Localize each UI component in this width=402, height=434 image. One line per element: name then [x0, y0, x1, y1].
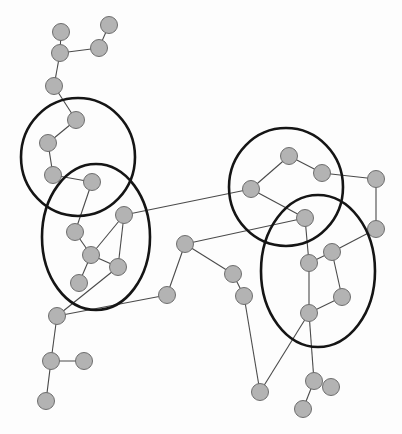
- graph-node-n12: [83, 247, 100, 264]
- graph-node-n14: [71, 275, 88, 292]
- graph-node-n26: [368, 171, 385, 188]
- cluster-4-outline: [261, 195, 375, 347]
- graph-node-n34: [306, 373, 323, 390]
- edges-layer: [46, 25, 376, 409]
- graph-node-n16: [159, 287, 176, 304]
- graph-node-n2: [101, 17, 118, 34]
- graph-node-n8: [45, 167, 62, 184]
- edge-n33-n23: [260, 313, 309, 392]
- nodes-layer: [38, 17, 385, 418]
- graph-node-n13: [110, 259, 127, 276]
- graph-node-n1: [53, 24, 70, 41]
- edge-n27-n28: [251, 189, 305, 218]
- graph-node-n17: [177, 236, 194, 253]
- graph-node-n6: [68, 112, 85, 129]
- graph-node-n28: [297, 210, 314, 227]
- graph-node-n15: [49, 308, 66, 325]
- graph-node-n19: [76, 353, 93, 370]
- edge-n15-n16: [57, 295, 167, 316]
- graph-node-n30: [324, 244, 341, 261]
- graph-node-n29: [368, 221, 385, 238]
- edge-n17-n28: [185, 218, 305, 244]
- clusters-layer: [21, 98, 375, 347]
- network-graph: [0, 0, 402, 434]
- graph-node-n31: [301, 255, 318, 272]
- graph-node-n22: [236, 288, 253, 305]
- graph-node-n10: [116, 207, 133, 224]
- graph-node-n7: [40, 135, 57, 152]
- graph-node-n35: [323, 379, 340, 396]
- graph-node-n24: [281, 148, 298, 165]
- graph-node-n25: [314, 165, 331, 182]
- graph-node-n3: [52, 45, 69, 62]
- edge-n22-n23: [244, 296, 260, 392]
- graph-node-n32: [334, 289, 351, 306]
- graph-node-n21: [225, 266, 242, 283]
- graph-node-n23: [252, 384, 269, 401]
- graph-node-n9: [84, 174, 101, 191]
- graph-node-n36: [295, 401, 312, 418]
- graph-node-n5: [46, 78, 63, 95]
- graph-node-n4: [91, 40, 108, 57]
- graph-node-n20: [38, 393, 55, 410]
- graph-node-n18: [43, 353, 60, 370]
- graph-node-n33: [301, 305, 318, 322]
- graph-node-n11: [67, 224, 84, 241]
- graph-node-n27: [243, 181, 260, 198]
